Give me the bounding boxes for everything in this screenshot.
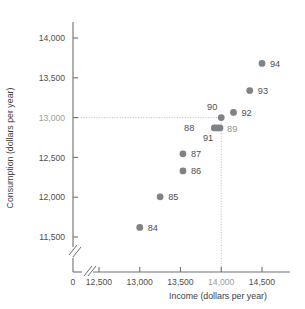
x-tick-label: 13,500 (167, 277, 194, 287)
plot-canvas: 11,50012,00012,50013,00013,50014,000012,… (0, 0, 305, 309)
data-points-group: 8485868788899091929394 (136, 59, 280, 233)
data-point-label: 87 (191, 149, 201, 159)
y-tick-label: 14,000 (39, 33, 66, 43)
data-point[interactable]: 86 (180, 166, 202, 176)
data-point[interactable]: 92 (230, 108, 252, 118)
data-point-label: 85 (168, 192, 178, 202)
data-point[interactable]: 87 (180, 149, 202, 159)
data-point-label: 93 (258, 86, 268, 96)
y-tick-label: 12,500 (39, 153, 66, 163)
data-point-label: 89 (227, 124, 237, 134)
data-point[interactable]: 93 (246, 86, 268, 96)
x-tick-label: 14,000 (208, 277, 235, 287)
data-point-marker (259, 60, 266, 67)
data-point-marker (218, 114, 225, 121)
x-tick-label: 13,000 (127, 277, 154, 287)
axes-group (69, 22, 290, 276)
x-tick-label: 12,500 (86, 277, 113, 287)
data-point[interactable]: 85 (157, 192, 179, 202)
data-point-marker (214, 125, 221, 132)
reference-lines-group (73, 118, 221, 272)
scatter-plot-figure: 11,50012,00012,50013,00013,50014,000012,… (0, 0, 305, 309)
data-point[interactable]: 90 (207, 102, 225, 121)
data-point[interactable]: 88 (184, 123, 218, 133)
data-point-marker (180, 168, 187, 175)
data-point-marker (136, 224, 143, 231)
y-tick-label: 13,500 (39, 73, 66, 83)
y-tick-label: 13,000 (39, 113, 66, 123)
y-tick-label: 12,000 (39, 192, 66, 202)
data-point-label: 90 (207, 102, 217, 112)
data-point-label: 92 (241, 108, 251, 118)
y-axis-title: Consumption (dollars per year) (5, 88, 15, 209)
data-point-label: 84 (148, 223, 158, 233)
data-point-marker (246, 87, 253, 94)
data-point-label: 86 (191, 166, 201, 176)
data-point-label: 88 (184, 123, 194, 133)
data-point[interactable]: 84 (136, 223, 158, 233)
x-axis-break-mark (88, 266, 96, 276)
data-point[interactable]: 94 (259, 59, 281, 69)
y-tick-label: 11,500 (39, 232, 65, 242)
x-tick-label: 0 (71, 277, 76, 287)
data-point-label: 91 (203, 133, 213, 143)
data-point-marker (230, 109, 237, 116)
data-point-marker (157, 193, 164, 200)
x-tick-label: 14,500 (249, 277, 276, 287)
x-axis-title: Income (dollars per year) (169, 291, 267, 301)
data-point-label: 94 (270, 59, 280, 69)
tick-marks-group (73, 38, 262, 272)
x-axis-break-mark (84, 266, 92, 276)
data-point-marker (180, 150, 187, 157)
